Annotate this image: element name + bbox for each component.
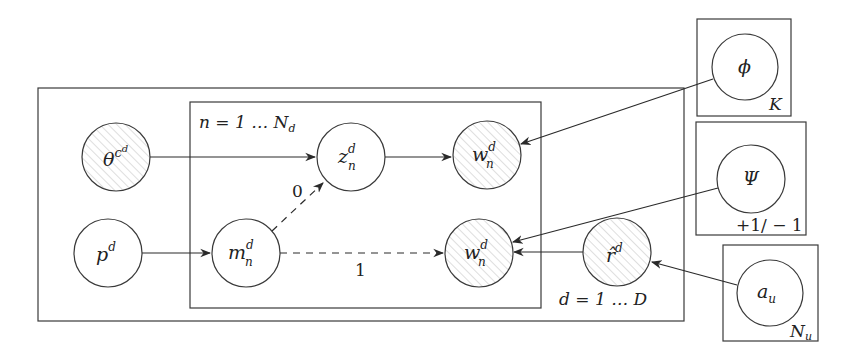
plate-sentiment-label: +1/ − 1: [736, 215, 803, 235]
svg-text:n: n: [486, 157, 494, 171]
graphical-model-diagram: n = 1 … Nd d = 1 … D K +1/ − 1 Nu 0 1 θc…: [0, 0, 855, 360]
plate-documents: [38, 88, 684, 321]
svg-text:n: n: [478, 255, 486, 269]
svg-text:n: n: [245, 255, 253, 269]
node-w-bottom: wd n: [445, 219, 513, 287]
edge-label-zero: 0: [292, 181, 303, 201]
plate-topics-label: K: [768, 94, 783, 114]
node-m: md n: [212, 219, 280, 287]
node-w-top: wd n: [453, 121, 521, 189]
plate-users-label: Nu: [789, 321, 812, 343]
node-p: pd: [74, 219, 142, 287]
node-z: zd n: [317, 123, 385, 191]
edge-label-one: 1: [355, 260, 366, 280]
node-theta: θcd: [82, 123, 150, 191]
edge-au-to-rhat: [652, 262, 737, 285]
node-psi: Ψ: [717, 145, 785, 213]
plate-documents-label: d = 1 … D: [559, 289, 648, 309]
svg-text:ϕ: ϕ: [738, 55, 751, 77]
svg-text:Ψ: Ψ: [743, 168, 760, 189]
plate-words-label: n = 1 … Nd: [199, 112, 296, 135]
node-a-u: au: [737, 260, 803, 326]
node-phi: ϕ: [712, 34, 778, 100]
node-r-hat: r̂d: [583, 218, 651, 286]
svg-text:n: n: [348, 159, 356, 173]
